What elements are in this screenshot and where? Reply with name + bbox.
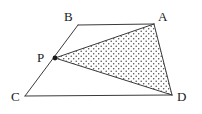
vertex-label-C: C <box>11 90 20 103</box>
vertex-label-B: B <box>64 10 73 23</box>
shaded-triangle-PAD <box>55 24 172 95</box>
vertex-label-D: D <box>177 90 186 103</box>
vertex-label-A: A <box>158 10 167 23</box>
vertex-marker-P <box>53 56 58 61</box>
segment-BA-line <box>78 24 154 25</box>
segment-DC-line <box>25 95 172 96</box>
vertex-label-P: P <box>37 51 44 64</box>
geometry-figure-canvas: A B C D P <box>0 0 202 114</box>
geometry-figure-svg <box>0 0 202 114</box>
